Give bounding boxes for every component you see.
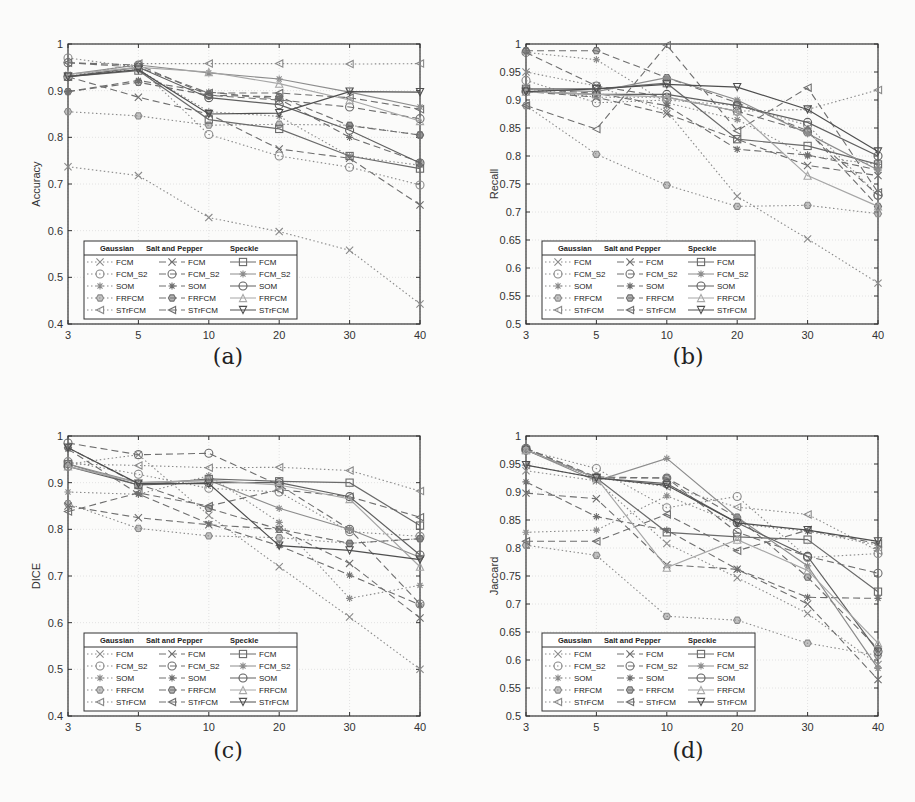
y-tick-label: 0.4 [48,710,63,722]
hexagon-marker-icon [416,132,423,138]
x-marker-icon [734,193,741,200]
hexagon-marker-icon [593,552,600,558]
hexagon-marker-icon [276,526,283,532]
hexagon-marker-icon [276,121,283,127]
legend-entry-label: FRFCM [116,686,144,695]
series-line [526,89,878,170]
legend-entry-label: FCM [116,258,134,267]
legend-entry-label: FRFCM [574,294,602,303]
y-tick-label: 0.6 [48,225,63,237]
legend-header: Speckle [688,636,716,645]
x-tick-label: 40 [872,329,884,341]
hexagon-marker-icon [554,295,561,301]
y-tick-label: 0.5 [48,663,63,675]
star-marker-icon [168,674,175,681]
x-marker-icon [276,563,283,570]
legend-entry-label: FRFCM [646,686,674,695]
legend-entry-label: SOM [717,674,736,683]
x-tick-label: 10 [203,329,215,341]
hexagon-marker-icon [416,536,423,542]
legend: GaussianSalt and PepperSpeckleFCMFCMFCMF… [542,633,755,711]
hexagon-marker-icon [593,151,600,157]
y-axis-label: Jaccard [488,557,500,596]
y-tick-label: 0.95 [500,66,521,78]
x-tick-label: 30 [343,721,355,733]
triangle-left-marker-icon [346,467,353,474]
y-tick-label: 0.5 [48,271,63,283]
legend-entry-label: FCM [717,258,735,267]
star-marker-icon [734,116,741,123]
star-marker-icon [64,488,71,495]
x-tick-label: 5 [593,329,599,341]
legend-entry-label: FCM_S2 [574,270,606,279]
legend-entry-label: FCM [188,650,206,659]
legend-entry-label: SOM [574,282,593,291]
legend-entry-label: SOM [116,674,135,683]
legend-entry-label: FCM_S2 [646,270,678,279]
legend-entry-label: FRFCM [717,294,745,303]
y-tick-label: 0.9 [48,85,63,97]
hexagon-marker-icon [626,295,633,301]
legend-entry-label: SOM [646,674,665,683]
series-line [68,58,420,185]
legend-entry-label: STrFCM [259,698,289,707]
y-tick-label: 0.9 [48,477,63,489]
star-marker-icon [554,674,561,681]
y-tick-label: 0.7 [48,570,63,582]
star-marker-icon [663,492,670,499]
legend-entry-label: FCM_S2 [717,662,749,671]
legend-entry-label: STrFCM [717,698,747,707]
chart-accuracy: 0.40.50.60.70.80.913510203040Noise Densi… [0,0,457,345]
legend-header: Gaussian [100,244,134,253]
legend-entry-label: SOM [646,282,665,291]
hexagon-marker-icon [64,109,71,115]
x-tick-label: 10 [203,721,215,733]
legend-entry-label: STrFCM [116,306,146,315]
star-marker-icon [697,662,704,669]
hexagon-marker-icon [276,535,283,541]
legend-entry-label: FCM [188,258,206,267]
star-marker-icon [593,513,600,520]
legend-entry-label: FCM_S2 [116,270,148,279]
legend: GaussianSalt and PepperSpeckleFCMFCMFCMF… [84,633,297,711]
x-marker-icon [804,162,811,169]
x-tick-label: 20 [273,721,285,733]
y-tick-label: 0.6 [506,262,521,274]
series-line [68,71,420,169]
star-marker-icon [276,519,283,526]
series-line [68,466,420,566]
hexagon-marker-icon [135,525,142,531]
hexagon-marker-icon [593,48,600,54]
hexagon-marker-icon [734,617,741,623]
legend-entry-label: FCM_S2 [259,662,291,671]
series-line [526,45,878,192]
legend-entry-label: FRFCM [646,294,674,303]
star-marker-icon [874,665,881,672]
x-axis-label: Noise Density [210,735,278,737]
hexagon-marker-icon [96,295,103,301]
hexagon-marker-icon [346,540,353,546]
x-marker-icon [276,228,283,235]
star-marker-icon [804,151,811,158]
legend-entry-label: FCM [646,258,664,267]
y-tick-label: 0.8 [506,150,521,162]
legend-entry-label: STrFCM [116,698,146,707]
legend-entry-label: FCM_S2 [188,662,220,671]
x-tick-label: 5 [135,329,141,341]
star-marker-icon [416,601,423,608]
hexagon-marker-icon [804,202,811,208]
chart-dice: 0.40.50.60.70.80.913510203040Noise Densi… [0,392,457,737]
series-line [68,70,420,166]
x-tick-label: 30 [801,721,813,733]
x-tick-label: 3 [523,329,529,341]
hexagon-marker-icon [96,687,103,693]
series-line [68,112,420,135]
star-marker-icon [239,662,246,669]
legend-entry-label: SOM [188,282,207,291]
legend-entry-label: STrFCM [574,698,604,707]
y-tick-label: 0.55 [500,682,521,694]
hexagon-marker-icon [663,182,670,188]
legend-entry-label: STrFCM [574,306,604,315]
legend-header: Speckle [688,244,716,253]
legend-entry-label: FRFCM [259,686,287,695]
